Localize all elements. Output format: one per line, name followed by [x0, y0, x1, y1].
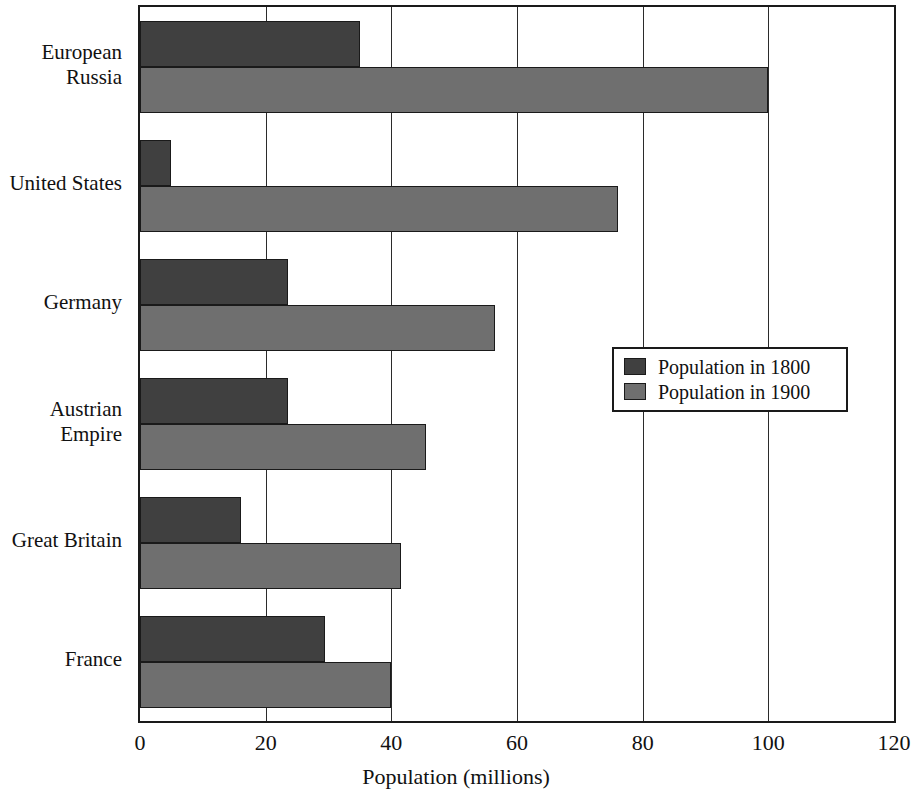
x-axis-tick: 20 [255, 728, 277, 758]
y-axis-label: Great Britain [12, 528, 122, 553]
x-axis-tick: 40 [380, 728, 402, 758]
bar-1800 [140, 497, 241, 543]
bar-group [140, 497, 894, 589]
x-axis-tick: 100 [752, 728, 785, 758]
legend-item: Population in 1900 [624, 379, 836, 404]
x-axis-tick: 120 [878, 728, 911, 758]
bar-group [140, 616, 894, 708]
x-axis-tick: 0 [135, 728, 146, 758]
legend-label: Population in 1800 [658, 356, 810, 378]
bar-1800 [140, 616, 325, 662]
legend-swatch-icon [624, 358, 646, 375]
y-axis-category-labels: European RussiaUnited StatesGermanyAustr… [0, 5, 130, 723]
legend-item: Population in 1800 [624, 354, 836, 379]
bar-1800 [140, 259, 288, 305]
bar-group [140, 259, 894, 351]
bar-1900 [140, 305, 495, 351]
chart-legend: Population in 1800Population in 1900 [612, 347, 848, 412]
legend-label: Population in 1900 [658, 381, 810, 403]
y-axis-label: United States [9, 171, 122, 196]
x-axis-tick: 80 [632, 728, 654, 758]
bar-1800 [140, 21, 360, 67]
bar-group [140, 140, 894, 232]
bar-1900 [140, 543, 401, 589]
y-axis-label: Germany [44, 290, 122, 315]
bar-1800 [140, 140, 171, 186]
x-axis-tick-labels: 020406080100120 [138, 728, 896, 762]
bar-1900 [140, 67, 768, 113]
bar-1900 [140, 662, 391, 708]
x-axis-tick: 60 [506, 728, 528, 758]
y-axis-label: France [65, 647, 122, 672]
bar-1800 [140, 378, 288, 424]
x-axis-title: Population (millions) [0, 764, 912, 790]
bar-1900 [140, 424, 426, 470]
bar-chart: European RussiaUnited StatesGermanyAustr… [0, 0, 912, 804]
bar-group [140, 21, 894, 113]
y-axis-label: Austrian Empire [50, 397, 122, 447]
legend-swatch-icon [624, 383, 646, 400]
bar-1900 [140, 186, 618, 232]
y-axis-label: European Russia [42, 40, 122, 90]
